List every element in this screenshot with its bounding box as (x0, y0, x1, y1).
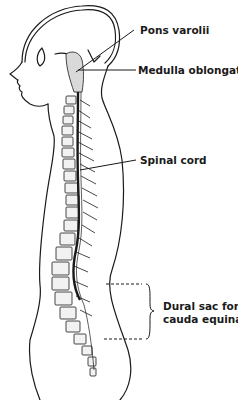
vertebral-column (52, 52, 98, 376)
face-profile (10, 62, 48, 106)
leader-pons (76, 30, 134, 72)
label-spinal-cord: Spinal cord (140, 154, 207, 166)
label-dural-sac-line2: cauda equina (163, 313, 238, 325)
leader-spinal-cord (80, 160, 136, 170)
label-dural-sac-line1: Dural sac for (163, 300, 238, 312)
label-pons-varolii: Pons varolii (140, 24, 209, 36)
spine-anatomy-diagram (0, 0, 238, 400)
label-medulla-oblongata: Medulla oblongata (138, 64, 238, 76)
brace (146, 284, 154, 339)
